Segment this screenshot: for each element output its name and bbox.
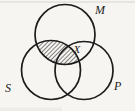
label-m: M	[94, 3, 106, 17]
label-s: S	[5, 81, 11, 95]
scan-smudge	[0, 108, 62, 112]
label-x-mark: X	[73, 43, 82, 55]
venn-diagram-svg: M S P X	[0, 0, 135, 111]
venn-figure: M S P X	[0, 0, 135, 111]
label-p: P	[113, 79, 122, 93]
